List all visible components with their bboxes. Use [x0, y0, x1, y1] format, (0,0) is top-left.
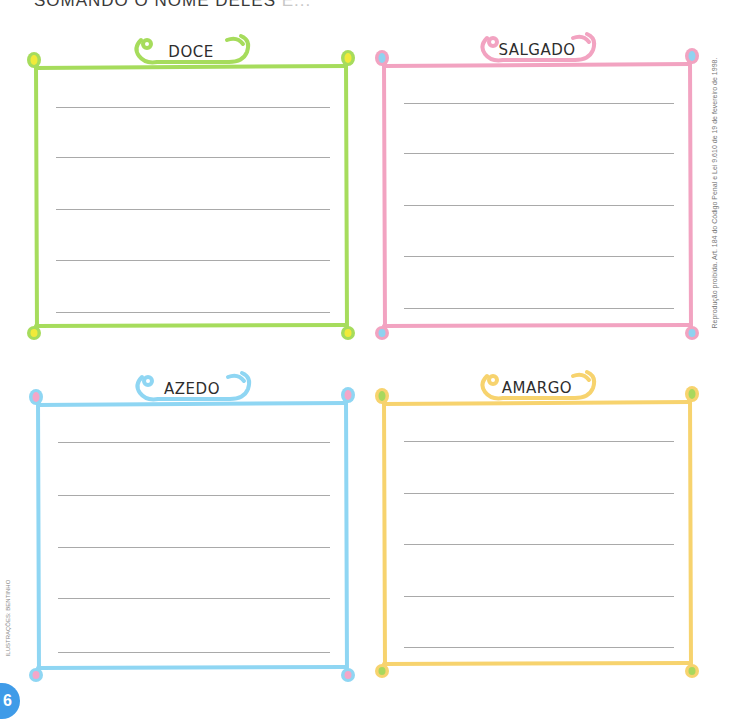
corner-curl-icons [375, 48, 699, 340]
writing-line[interactable] [404, 493, 674, 494]
writing-line[interactable] [56, 260, 330, 261]
panel-salgado: SALGADO [376, 23, 698, 335]
writing-line[interactable] [404, 544, 674, 545]
frame-border [384, 58, 691, 332]
frame-border [36, 60, 347, 332]
writing-line[interactable] [404, 308, 674, 309]
frame-border [38, 397, 347, 674]
panel-frame [376, 23, 698, 335]
corner-curl-icons [27, 50, 355, 340]
panel-doce: DOCE [28, 27, 354, 335]
panel-title-wrap: SALGADO [477, 32, 597, 62]
writing-line[interactable] [404, 205, 674, 206]
writing-line[interactable] [404, 256, 674, 257]
frame-border [384, 396, 691, 670]
panel-title: DOCE [168, 43, 213, 64]
panel-frame [28, 27, 354, 335]
writing-line[interactable] [58, 547, 330, 548]
writing-line[interactable] [404, 441, 674, 442]
writing-line[interactable] [58, 652, 330, 653]
corner-curl-icons [29, 387, 355, 682]
writing-line[interactable] [404, 596, 674, 597]
panel-amargo: AMARGO [376, 360, 698, 680]
illustration-credit: ILUSTRAÇÕES: BENTINHO [5, 580, 11, 657]
panel-title: SALGADO [498, 41, 575, 62]
panel-title-wrap: AMARGO [477, 370, 597, 400]
corner-curl-icons [375, 386, 699, 678]
instruction-heading: SOMANDO O NOME DELES E... [34, 0, 311, 11]
writing-line[interactable] [404, 103, 674, 104]
writing-line[interactable] [404, 153, 674, 154]
writing-line[interactable] [58, 495, 330, 496]
panel-azedo: AZEDO [30, 362, 354, 680]
writing-line[interactable] [56, 312, 330, 313]
instruction-text-faded: E... [276, 0, 311, 10]
writing-line[interactable] [56, 107, 330, 108]
writing-line[interactable] [56, 209, 330, 210]
copyright-note: Reprodução proibida. Art. 184 do Código … [711, 99, 718, 329]
instruction-text: SOMANDO O NOME DELES [34, 0, 276, 10]
panel-title: AMARGO [502, 379, 572, 400]
panel-title-wrap: DOCE [131, 34, 251, 64]
page-number: 6 [3, 692, 12, 710]
panel-title-wrap: AZEDO [132, 371, 252, 401]
panel-title: AZEDO [164, 380, 220, 401]
writing-line[interactable] [58, 598, 330, 599]
page-number-badge: 6 [0, 683, 20, 719]
writing-line[interactable] [404, 647, 674, 648]
panel-frame [30, 362, 354, 680]
writing-line[interactable] [58, 442, 330, 443]
panel-frame [376, 360, 698, 680]
writing-line[interactable] [56, 157, 330, 158]
